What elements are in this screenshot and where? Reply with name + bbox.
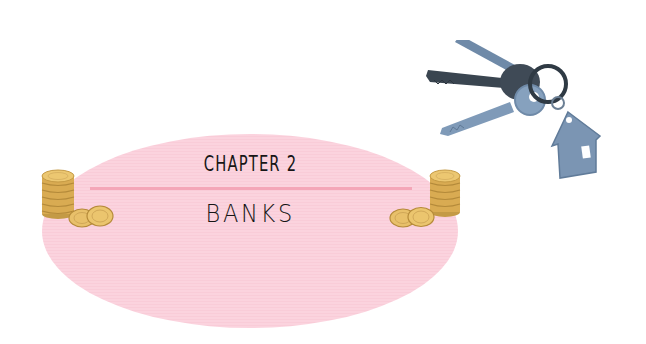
coin-stack-icon <box>38 166 128 236</box>
house-keys-icon <box>420 40 620 200</box>
title-divider <box>90 187 412 190</box>
